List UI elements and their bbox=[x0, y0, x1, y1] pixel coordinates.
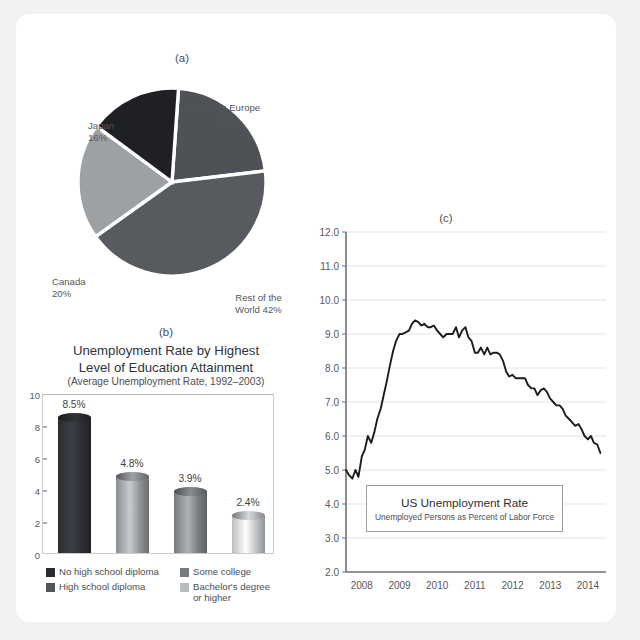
panel-b-title: Unemployment Rate by Highest Level of Ed… bbox=[26, 342, 306, 376]
bar-y-tick-label: 4 bbox=[35, 486, 40, 497]
x-tick-label: 2012 bbox=[501, 580, 524, 591]
line-chart-callout-title: US Unemployment Rate bbox=[401, 496, 528, 510]
y-tick-label: 10.0 bbox=[320, 295, 340, 306]
pie-label-canada-line1: Canada bbox=[52, 276, 86, 288]
bar-column bbox=[58, 417, 91, 553]
bar-plot-area: 0246810 8.5%4.8%3.9%2.4% bbox=[42, 394, 274, 554]
pie-label-canada: Canada 20% bbox=[52, 276, 86, 299]
legend-row: High school diploma Bachelor's degree or… bbox=[46, 581, 308, 604]
pie-label-rest-of-world: Rest of the World 42% bbox=[235, 292, 282, 315]
y-tick-label: 5.0 bbox=[325, 465, 339, 476]
bar-column bbox=[232, 515, 265, 553]
panel-b-title-line2: Level of Education Attainment bbox=[26, 359, 306, 376]
bar-value-label: 2.4% bbox=[218, 497, 278, 508]
unemployment-rate-line bbox=[346, 320, 600, 478]
line-chart-callout-box: US Unemployment Rate Unemployed Persons … bbox=[366, 485, 563, 532]
bar-y-tick-label: 8 bbox=[35, 422, 40, 433]
x-tick-label: 2011 bbox=[464, 580, 486, 591]
legend-label: Bachelor's degree or higher bbox=[193, 581, 270, 604]
x-tick-label: 2008 bbox=[351, 580, 374, 591]
y-tick-label: 7.0 bbox=[325, 397, 339, 408]
legend-label: No high school diploma bbox=[59, 566, 159, 578]
pie-label-japan: Japan 16% bbox=[88, 120, 114, 143]
line-chart-callout-subtitle: Unemployed Persons as Percent of Labor F… bbox=[375, 512, 554, 522]
bar-body bbox=[116, 476, 149, 553]
bar-top-ellipse bbox=[58, 413, 91, 422]
panel-c-letter: (c) bbox=[424, 212, 468, 224]
bar-value-label: 3.9% bbox=[160, 473, 220, 484]
bar-y-tick-label: 10 bbox=[29, 390, 40, 401]
y-tick-label: 8.0 bbox=[325, 363, 339, 374]
pie-label-western-europe-line1: Western Europe bbox=[191, 102, 260, 114]
panel-c-line-chart: (c) 2.03.04.05.06.07.08.09.010.011.012.0… bbox=[304, 204, 616, 622]
line-chart-svg: 2.03.04.05.06.07.08.09.010.011.012.02008… bbox=[304, 228, 616, 608]
figure-page: — · · · (a) Western Europe 22% Rest of t… bbox=[0, 0, 640, 640]
bar-top-ellipse bbox=[174, 487, 207, 496]
legend-swatch-icon bbox=[46, 583, 55, 592]
bar-y-tick-label: 0 bbox=[35, 550, 40, 561]
x-tick-label: 2009 bbox=[388, 580, 411, 591]
clipped-top-text: — · · · bbox=[0, 0, 640, 6]
pie-label-western-europe-line2: 22% bbox=[191, 114, 260, 126]
bar-chart-legend: No high school diploma Some college High… bbox=[46, 566, 308, 607]
bar-y-tick-label: 6 bbox=[35, 454, 40, 465]
pie-label-japan-line2: 16% bbox=[88, 132, 114, 144]
bar-column bbox=[116, 476, 149, 553]
y-tick-label: 3.0 bbox=[325, 533, 339, 544]
pie-label-canada-line2: 20% bbox=[52, 288, 86, 300]
y-tick-label: 11.0 bbox=[320, 261, 339, 272]
bar-body bbox=[58, 417, 91, 553]
x-tick-label: 2014 bbox=[577, 580, 600, 591]
panel-b-subtitle: (Average Unemployment Rate, 1992–2003) bbox=[26, 376, 306, 387]
legend-label: High school diploma bbox=[59, 581, 145, 593]
legend-item-some-college: Some college bbox=[180, 566, 251, 578]
bar-y-tick-label: 2 bbox=[35, 518, 40, 529]
bar-column bbox=[174, 491, 207, 553]
panel-b-bar-chart: (b) Unemployment Rate by Highest Level o… bbox=[16, 314, 316, 622]
legend-label-line2: or higher bbox=[193, 592, 231, 603]
legend-label: Some college bbox=[193, 566, 251, 578]
panel-a-pie-chart: (a) Western Europe 22% Rest of the World… bbox=[16, 24, 316, 314]
legend-swatch-icon bbox=[46, 568, 55, 577]
legend-swatch-icon bbox=[180, 583, 189, 592]
x-tick-label: 2010 bbox=[426, 580, 449, 591]
legend-item-no-high-school-diploma: No high school diploma bbox=[46, 566, 180, 578]
bar-value-label: 4.8% bbox=[102, 458, 162, 469]
bar-body bbox=[232, 515, 265, 553]
bar-body bbox=[174, 491, 207, 553]
bar-series: 8.5%4.8%3.9%2.4% bbox=[43, 395, 273, 553]
panel-b-letter: (b) bbox=[144, 326, 188, 338]
y-tick-label: 4.0 bbox=[325, 499, 339, 510]
legend-item-high-school-diploma: High school diploma bbox=[46, 581, 180, 604]
y-tick-label: 6.0 bbox=[325, 431, 339, 442]
y-tick-label: 9.0 bbox=[325, 329, 339, 340]
legend-item-bachelors-degree-or-higher: Bachelor's degree or higher bbox=[180, 581, 270, 604]
pie-label-japan-line1: Japan bbox=[88, 120, 114, 132]
legend-label-line1: Bachelor's degree bbox=[193, 581, 270, 592]
y-tick-label: 12.0 bbox=[320, 228, 340, 238]
bar-top-ellipse bbox=[232, 511, 265, 520]
panel-b-title-line1: Unemployment Rate by Highest bbox=[26, 342, 306, 359]
pie-label-rest-of-world-line1: Rest of the bbox=[235, 292, 282, 304]
panel-a-letter: (a) bbox=[160, 52, 204, 64]
y-tick-label: 2.0 bbox=[325, 567, 339, 578]
legend-swatch-icon bbox=[180, 568, 189, 577]
pie-label-western-europe: Western Europe 22% bbox=[191, 102, 260, 125]
legend-row: No high school diploma Some college bbox=[46, 566, 308, 578]
figure-card: (a) Western Europe 22% Rest of the World… bbox=[16, 14, 616, 622]
x-tick-label: 2013 bbox=[539, 580, 562, 591]
bar-value-label: 8.5% bbox=[44, 399, 104, 410]
